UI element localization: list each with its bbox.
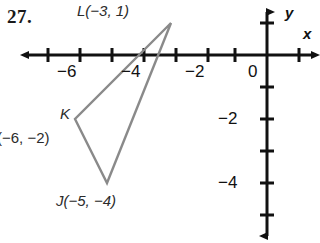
y-tick-label-neg2: −2: [218, 110, 237, 127]
x-axis-name: x: [303, 26, 311, 41]
worksheet-graph-figure: 27. L(−3, 1) K (−6, −2) J(−5, −4) −6 −4 …: [0, 0, 320, 243]
vertex-label-k: K: [60, 106, 70, 121]
triangle-jkl: [75, 23, 171, 183]
x-axis: [28, 48, 312, 62]
x-tick-label-neg2: −2: [185, 63, 204, 80]
coordinate-plane: [0, 0, 320, 243]
origin-label: 0: [248, 63, 257, 80]
vertex-label-j: J(−5, −4): [56, 193, 116, 208]
x-tick-label-neg4: −4: [121, 63, 140, 80]
y-tick-label-neg4: −4: [218, 174, 237, 191]
y-axis: [260, 12, 274, 236]
vertex-label-l: L(−3, 1): [77, 3, 129, 18]
vertex-coords-k: (−6, −2): [0, 130, 50, 145]
y-axis-name: y: [285, 5, 293, 20]
problem-number: 27.: [7, 7, 32, 26]
x-tick-label-neg6: −6: [57, 63, 76, 80]
